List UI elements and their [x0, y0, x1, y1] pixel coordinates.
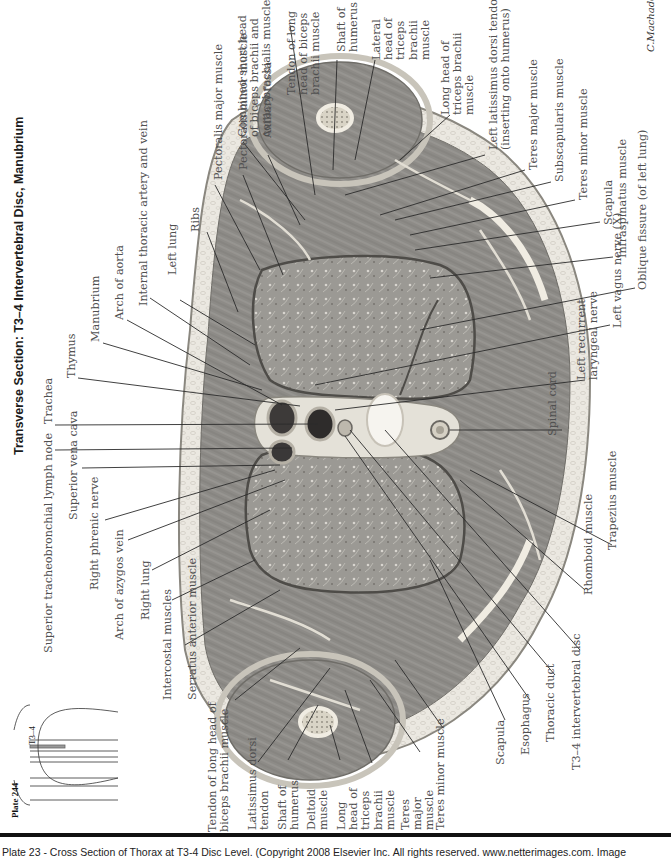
- label-tendon-long-head-biceps-bottom: Tendon of long head of biceps brachii mu…: [207, 702, 231, 832]
- label-manubrium: Manubrium: [90, 276, 102, 342]
- label-latissimus-dorsi-tendon: Latissimus dorsi tendon: [247, 737, 271, 830]
- label-teres-minor-top: Teres minor muscle: [578, 88, 590, 200]
- label-superior-tracheobronchial-node: Superior tracheobronchial lymph node: [43, 433, 55, 653]
- label-deltoid: Deltoid muscle: [306, 789, 330, 830]
- plate-reference: Plate 244: [10, 783, 20, 818]
- label-rhomboid: Rhomboid muscle: [583, 494, 595, 595]
- label-teres-minor-bottom: Teres minor muscle: [435, 718, 447, 830]
- label-pectoralis-major: Pectoralis major muscle: [213, 44, 225, 180]
- artist-signature: C.Machado M.D.: [645, 0, 656, 52]
- label-teres-major-bottom: Teres major muscle: [400, 790, 437, 830]
- footer-rule: [0, 833, 671, 837]
- t3-4-disc: [367, 394, 403, 446]
- anatomy-plate: Transverse Section: T3–4 Intervertebral …: [0, 0, 671, 858]
- label-serratus-anterior: Serratus anterior muscle: [187, 558, 199, 700]
- superior-vena-cava: [270, 441, 294, 463]
- label-internal-thoracic: Internal thoracic artery and vein: [138, 120, 150, 306]
- label-thymus: Thymus: [66, 333, 78, 378]
- label-esophagus: Esophagus: [520, 693, 532, 755]
- label-shaft-of-humerus-top: Shaft of humerus: [336, 2, 360, 52]
- label-oblique-fissure: Oblique fissure (of left lung): [637, 130, 649, 290]
- label-arch-of-azygos: Arch of azygos vein: [114, 529, 126, 640]
- humerus-right: [300, 708, 336, 736]
- label-lateral-head-triceps: Lateral head of triceps brachii muscle: [371, 18, 432, 60]
- level-reference-diagram: [14, 705, 118, 805]
- label-trapezius: Trapezius muscle: [607, 451, 619, 550]
- label-trachea: Trachea: [43, 378, 55, 424]
- label-shaft-of-humerus-bottom: Shaft of humerus: [277, 780, 301, 830]
- left-lung: [253, 256, 475, 399]
- footer-caption: Plate 23 - Cross Section of Thorax at T3…: [2, 846, 626, 858]
- plate-title: Transverse Section: T3–4 Intervertebral …: [12, 117, 26, 455]
- label-right-lung: Right lung: [140, 560, 152, 620]
- label-long-head-triceps-top: Long head of triceps brachii muscle: [440, 32, 477, 115]
- label-teres-major-top: Teres major muscle: [528, 59, 540, 170]
- label-combined-short-head-visible: Combined short head of biceps brachii an…: [237, 0, 274, 137]
- label-left-recurrent-laryngeal: Left recurrent laryngeal nerve: [576, 291, 600, 380]
- label-subscapularis: Subscapularis muscle: [554, 58, 566, 182]
- label-tendon-long-head-biceps-top: Tendon of long head of biceps brachii mu…: [286, 11, 323, 95]
- label-thoracic-duct: Thoracic duct: [545, 664, 557, 742]
- arch-of-aorta: [268, 401, 296, 435]
- label-superior-vena-cava: Superior vena cava: [68, 410, 80, 520]
- label-left-latissimus-tendon: Left latissimus dorsi tendon (inserting …: [488, 0, 512, 150]
- label-long-head-triceps-bottom: Long head of triceps brachii muscle: [336, 788, 397, 830]
- label-left-vagus-nerve: Left vagus nerve (X): [612, 213, 624, 328]
- label-left-lung: Left lung: [167, 224, 179, 275]
- label-t3-4-intervertebral-disc: T3–4 intervertebral disc: [571, 633, 583, 770]
- esophagus: [338, 420, 352, 436]
- label-ribs: Ribs: [190, 207, 202, 232]
- label-arch-of-aorta: Arch of aorta: [114, 245, 126, 320]
- label-right-phrenic-nerve: Right phrenic nerve: [89, 477, 101, 590]
- level-marker: T3–4: [27, 726, 37, 745]
- right-lung: [246, 446, 465, 593]
- label-spinal-cord: Spinal cord: [547, 371, 559, 436]
- label-scapula-bottom: Scapula: [495, 720, 507, 765]
- label-intercostal-muscles: Intercostal muscles: [162, 589, 174, 700]
